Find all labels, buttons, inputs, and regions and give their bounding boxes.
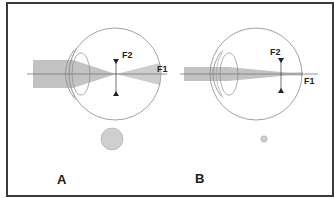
panel-a-eye: F2 F1	[27, 28, 168, 150]
panel-a-f2-arrow-bottom-icon	[113, 91, 119, 96]
panel-b-f2-arrow-top-icon	[278, 58, 284, 63]
panel-a-f1-label: F1	[157, 64, 168, 74]
panel-a-f2-label: F2	[122, 50, 133, 60]
panel-b-f1-label: F1	[304, 76, 315, 86]
panel-b-pupil	[261, 136, 267, 142]
panel-b-f2-label: F2	[270, 47, 281, 57]
panel-a-f2-arrow-top-icon	[113, 59, 119, 64]
eye-optics-diagram: F2 F1 F2 F1	[0, 0, 334, 198]
panel-b-f2-arrow-bottom-icon	[278, 88, 284, 93]
panel-b-label: B	[195, 171, 204, 186]
panel-b-eye: F2 F1	[180, 28, 318, 142]
panel-a-label: A	[57, 172, 66, 187]
panel-a-pupil	[101, 128, 123, 150]
